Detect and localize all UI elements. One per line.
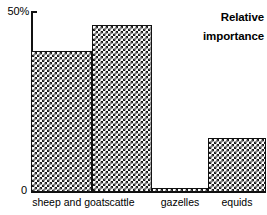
annotation-line-2: importance [144, 27, 264, 46]
bar-cattle [92, 25, 152, 192]
y-axis-label-50: 50% [1, 5, 29, 17]
x-axis-labels: sheep and goats cattle gazelles equids [31, 196, 267, 214]
x-axis-label-equids: equids [204, 196, 267, 209]
chart-annotation: Relative importance [144, 8, 264, 46]
x-axis-label-cattle: cattle [91, 196, 153, 209]
annotation-line-1: Relative [144, 8, 264, 27]
bar-chart: 50% 0 sheep and goats cattle gazelles eq… [0, 0, 267, 215]
bar-gazelles [152, 188, 208, 192]
bar-equids [208, 138, 266, 192]
y-axis-label-0: 0 [1, 184, 27, 196]
bar-sheep-and-goats [31, 51, 92, 192]
